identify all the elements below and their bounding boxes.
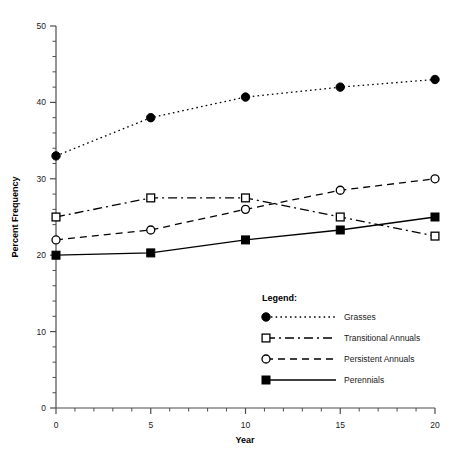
data-point-marker (242, 194, 250, 202)
data-point-marker (147, 249, 155, 257)
data-point-marker (147, 113, 155, 121)
y-axis-tick-label: 20 (37, 250, 47, 260)
data-point-marker (242, 236, 250, 244)
data-point-marker (431, 175, 439, 183)
legend-entry-label: Grasses (344, 312, 376, 322)
y-axis-tick-label: 0 (41, 403, 46, 413)
legend-entry-label: Persistent Annuals (344, 354, 414, 364)
data-point-marker (336, 186, 344, 194)
data-point-marker (147, 194, 155, 202)
data-point-marker (336, 213, 344, 221)
chart-page: 01020304050 05101520 Percent Frequency Y… (0, 0, 452, 459)
x-axis-tick-label: 10 (241, 420, 251, 430)
percent-frequency-line-chart: 01020304050 05101520 Percent Frequency Y… (0, 0, 452, 459)
data-point-marker (431, 232, 439, 240)
data-point-marker (52, 251, 60, 259)
x-axis-tick-label: 20 (430, 420, 440, 430)
data-point-marker (431, 75, 439, 83)
x-axis-title: Year (235, 435, 255, 445)
x-axis-tick-label: 0 (54, 420, 59, 430)
y-axis-tick-label: 10 (37, 327, 47, 337)
legend-entry-label: Perennials (344, 375, 384, 385)
y-axis-tick-label: 30 (37, 174, 47, 184)
data-point-marker (147, 226, 155, 234)
data-point-marker (52, 236, 60, 244)
data-point-marker (52, 152, 60, 160)
data-point-marker (336, 226, 344, 234)
y-axis-tick-label: 50 (37, 21, 47, 31)
data-point-marker (52, 213, 60, 221)
legend-title: Legend: (262, 293, 297, 303)
x-axis-tick-label: 5 (148, 420, 153, 430)
data-point-marker (262, 355, 270, 363)
data-point-marker (262, 376, 270, 384)
y-axis-tick-label: 40 (37, 97, 47, 107)
data-point-marker (431, 213, 439, 221)
data-point-marker (336, 83, 344, 91)
y-axis-title: Percent Frequency (10, 176, 20, 257)
legend-entry-label: Transitional Annuals (344, 333, 420, 343)
data-point-marker (262, 334, 270, 342)
data-point-marker (242, 205, 250, 213)
data-point-marker (262, 313, 270, 321)
chart-background (0, 0, 452, 459)
data-point-marker (241, 93, 249, 101)
x-axis-tick-label: 15 (336, 420, 346, 430)
